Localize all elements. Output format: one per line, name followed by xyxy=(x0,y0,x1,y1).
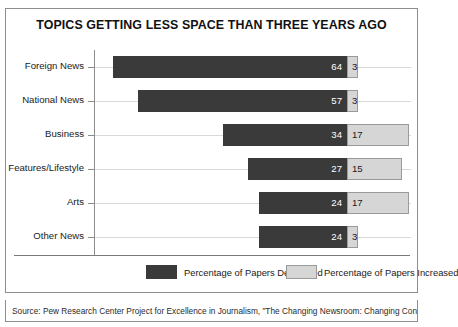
bar-row: Other News243 xyxy=(6,220,417,254)
gridline xyxy=(95,237,411,238)
category-label: National News xyxy=(6,94,84,105)
axis-tick xyxy=(88,67,95,68)
value-label-decreased: 24 xyxy=(259,197,342,208)
value-label-decreased: 57 xyxy=(138,95,342,106)
value-label-increased: 3 xyxy=(352,95,357,106)
value-label-increased: 17 xyxy=(352,129,363,140)
axis-tick xyxy=(88,101,95,102)
value-label-decreased: 34 xyxy=(223,129,342,140)
category-label: Business xyxy=(6,128,84,139)
page-title: TOPICS GETTING LESS SPACE THAN THREE YEA… xyxy=(6,18,417,32)
chart-frame: TOPICS GETTING LESS SPACE THAN THREE YEA… xyxy=(5,8,418,293)
plot-area: Foreign News643National News573Business3… xyxy=(6,46,417,255)
value-label-increased: 3 xyxy=(352,61,357,72)
category-label: Features/Lifestyle xyxy=(6,162,84,173)
bar-row: Foreign News643 xyxy=(6,50,417,84)
legend-swatch-increased-icon xyxy=(286,265,317,279)
source-note: Source: Pew Research Center Project for … xyxy=(5,300,418,322)
legend-label-increased: Percentage of Papers Increased xyxy=(324,267,458,278)
source-text: Source: Pew Research Center Project for … xyxy=(12,306,418,316)
value-label-increased: 17 xyxy=(352,197,363,208)
value-label-decreased: 24 xyxy=(259,231,342,242)
bar-row: Arts2417 xyxy=(6,186,417,220)
value-label-increased: 15 xyxy=(352,163,363,174)
bar-row: Features/Lifestyle2715 xyxy=(6,152,417,186)
axis-tick xyxy=(88,237,95,238)
value-label-decreased: 64 xyxy=(113,61,342,72)
axis-tick xyxy=(88,135,95,136)
value-axis-line xyxy=(14,255,410,256)
category-label: Foreign News xyxy=(6,60,84,71)
bar-row: Business3417 xyxy=(6,118,417,152)
legend-swatch-decreased-icon xyxy=(146,265,177,279)
axis-tick xyxy=(88,169,95,170)
bar-row: National News573 xyxy=(6,84,417,118)
category-label: Other News xyxy=(6,230,84,241)
value-label-increased: 3 xyxy=(352,231,357,242)
chart-legend: Percentage of Papers Decreased Percentag… xyxy=(6,264,417,290)
axis-tick xyxy=(88,203,95,204)
value-label-decreased: 27 xyxy=(248,163,342,174)
category-label: Arts xyxy=(6,196,84,207)
